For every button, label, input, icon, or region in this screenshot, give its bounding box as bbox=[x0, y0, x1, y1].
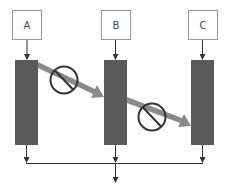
node-c-bar bbox=[191, 60, 214, 145]
node-a: A bbox=[13, 11, 42, 146]
node-b-label: B bbox=[113, 20, 120, 31]
node-c-label: C bbox=[200, 20, 207, 31]
node-b-bar bbox=[104, 60, 127, 145]
flow-diagram: A B C bbox=[0, 0, 226, 188]
blocked-transfer-a-b bbox=[38, 62, 104, 98]
merge-lines bbox=[26, 145, 203, 182]
node-c: C bbox=[189, 11, 218, 146]
node-a-label: A bbox=[24, 20, 31, 31]
transfer-arrow-b-c bbox=[127, 97, 191, 127]
blocked-transfer-b-c bbox=[127, 97, 191, 131]
node-b: B bbox=[102, 11, 131, 146]
node-a-bar bbox=[15, 60, 38, 145]
